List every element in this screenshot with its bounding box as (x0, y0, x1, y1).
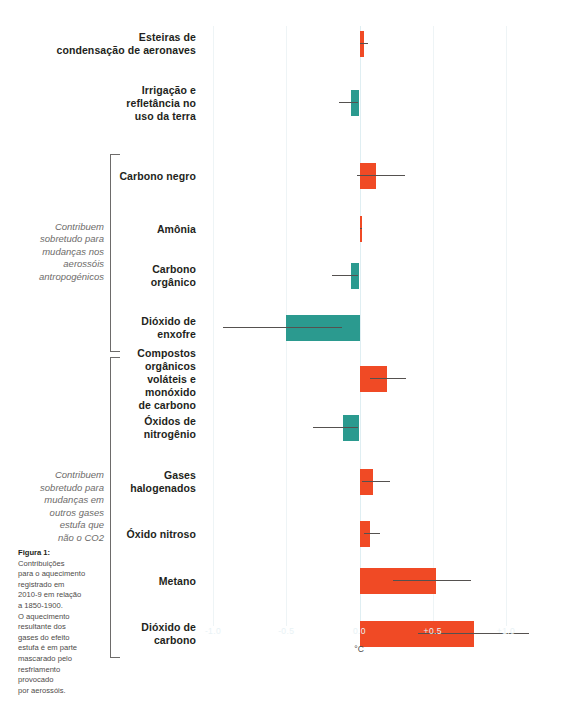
category-label-line: refletância no (44, 97, 196, 110)
group-note-line: sobretudo para (8, 233, 104, 246)
bar (360, 31, 364, 57)
category-label: Compostosorgânicosvoláteis emonóxidode c… (44, 347, 196, 412)
category-label: Carbono negro (44, 170, 196, 183)
error-bar (360, 228, 363, 229)
group-note-line: Contribuem (8, 469, 104, 482)
category-label-line: Óxidos de (44, 415, 196, 428)
error-bar (357, 175, 405, 176)
category-label-line: voláteis e (44, 373, 196, 386)
x-tick-label: -1.0 (205, 626, 221, 636)
group-note-line: antropogénicos (8, 271, 104, 284)
caption-line: provocado (18, 675, 116, 686)
group-note-line: estufa que (8, 519, 104, 532)
bar (360, 469, 373, 495)
bar (351, 263, 360, 289)
group-note-line: não o CO2 (8, 532, 104, 545)
caption-line: Contribuições (18, 559, 116, 570)
gridline-1 (506, 26, 507, 626)
error-bar (223, 327, 342, 328)
category-label-line: Irrigação e (44, 84, 196, 97)
category-label-line: enxofre (44, 328, 196, 341)
category-label-line: uso da terra (44, 110, 196, 123)
x-tick-label: -0.5 (278, 626, 294, 636)
caption-title: Figura 1: (18, 548, 116, 559)
category-label: Dióxido deenxofre (44, 315, 196, 341)
caption-line: estufa é em parte (18, 643, 116, 654)
caption-line: gases do efeito (18, 633, 116, 644)
figure-page: Esteiras decondensação de aeronavesIrrig… (0, 0, 569, 713)
x-tick-label: +1.0 (497, 626, 515, 636)
caption-line: mascarado pelo (18, 654, 116, 665)
bar (351, 90, 360, 116)
bar (360, 366, 388, 392)
x-axis-tick-labels: -1.0-0.50.0+0.5+1.0 (213, 626, 506, 642)
category-label: Óxidos denitrogênio (44, 415, 196, 441)
group-note-line: Contribuem (8, 221, 104, 234)
category-label-line: Esteiras de (44, 31, 196, 44)
error-bar (362, 481, 390, 482)
error-bar (313, 427, 358, 428)
caption-line: a 1850-1900. (18, 601, 116, 612)
group-note-line: aerossóis (8, 258, 104, 271)
x-tick-label: 0.0 (353, 626, 366, 636)
caption-line: 2010-9 em relação (18, 590, 116, 601)
gridline--1 (213, 26, 214, 626)
category-label-line: condensação de aeronaves (44, 44, 196, 57)
category-label-line: de carbono (44, 399, 196, 412)
caption-line: para o aquecimento (18, 569, 116, 580)
category-label-line: nitrogênio (44, 428, 196, 441)
category-label: Irrigação erefletância nouso da terra (44, 84, 196, 123)
group-note-line: mudanças nos (8, 246, 104, 259)
bar (343, 415, 359, 441)
caption-line: O aquecimento (18, 612, 116, 623)
bar (360, 216, 362, 242)
group-bracket (110, 154, 120, 352)
caption-line: registrado em (18, 580, 116, 591)
error-bar (364, 533, 380, 534)
x-axis-unit-label: °C (354, 644, 364, 654)
plot-area (213, 26, 506, 626)
group-note-line: mudanças em (8, 494, 104, 507)
error-bar (370, 378, 407, 379)
bar (286, 315, 359, 341)
group-note-line: sobretudo para (8, 482, 104, 495)
category-label-line: monóxido (44, 386, 196, 399)
group-note: Contribuemsobretudo paramudanças emoutro… (8, 469, 104, 544)
error-bar (393, 580, 471, 581)
category-label: Esteiras decondensação de aeronaves (44, 31, 196, 57)
category-label-line: Dióxido de (44, 315, 196, 328)
x-tick-label: +0.5 (424, 626, 442, 636)
error-bar (339, 102, 358, 103)
bar (360, 568, 436, 594)
caption-line: resultante dos (18, 622, 116, 633)
figure-caption: Figura 1:Contribuiçõespara o aquecimento… (18, 548, 116, 696)
caption-line: por aerossóis. (18, 686, 116, 697)
error-bar (332, 275, 358, 276)
gridline-0-5 (433, 26, 434, 626)
category-label-line: Carbono negro (44, 170, 196, 183)
caption-line: resfriamento (18, 665, 116, 676)
category-label-line: orgânicos (44, 360, 196, 373)
error-bar (360, 43, 369, 44)
category-label-line: Compostos (44, 347, 196, 360)
group-note-line: outros gases (8, 507, 104, 520)
bar (360, 163, 376, 189)
bar (360, 521, 370, 547)
group-note: Contribuemsobretudo paramudanças nosaero… (8, 221, 104, 284)
category-label-column: Esteiras decondensação de aeronavesIrrig… (0, 26, 196, 626)
